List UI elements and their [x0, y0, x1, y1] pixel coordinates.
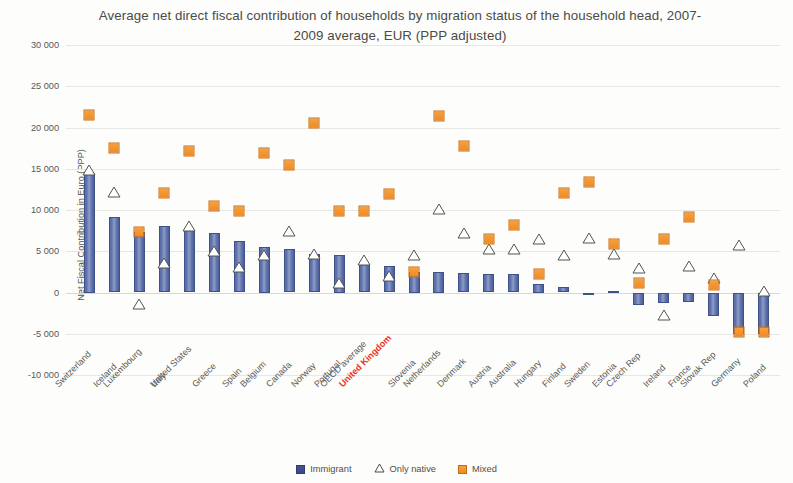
- bar-immigrant: [209, 233, 220, 292]
- marker-mixed: [658, 233, 669, 244]
- chart-title: Average net direct fiscal contribution o…: [90, 6, 710, 46]
- marker-only-native: [382, 270, 396, 282]
- marker-only-native: [732, 239, 746, 251]
- marker-mixed: [134, 227, 145, 238]
- y-axis-tick-label: 20 000: [31, 123, 59, 133]
- marker-mixed: [209, 200, 220, 211]
- legend-item[interactable]: Only native: [374, 463, 437, 475]
- bar-immigrant: [284, 249, 295, 293]
- y-axis-tick-label: 15 000: [31, 164, 59, 174]
- marker-mixed: [733, 327, 744, 338]
- gridline: [66, 45, 780, 46]
- legend-label: Only native: [390, 464, 437, 474]
- gridline: [66, 169, 780, 170]
- marker-mixed: [633, 277, 644, 288]
- y-axis-tick-label: 0: [54, 288, 59, 298]
- y-axis-tick-label: 10 000: [31, 205, 59, 215]
- marker-only-native: [107, 186, 121, 198]
- bar-immigrant: [583, 293, 594, 295]
- marker-mixed: [159, 187, 170, 198]
- legend-item[interactable]: Immigrant: [296, 464, 351, 474]
- marker-only-native: [557, 249, 571, 261]
- marker-only-native: [132, 298, 146, 310]
- marker-only-native: [182, 220, 196, 232]
- marker-only-native: [207, 245, 221, 257]
- marker-mixed: [483, 233, 494, 244]
- square-orange-icon: [458, 465, 467, 474]
- gridline: [66, 128, 780, 129]
- marker-mixed: [608, 238, 619, 249]
- marker-mixed: [84, 110, 95, 121]
- gridline: [66, 293, 780, 294]
- marker-mixed: [533, 268, 544, 279]
- marker-only-native: [357, 254, 371, 266]
- y-axis-tick-label: 25 000: [31, 81, 59, 91]
- y-axis-tick-label: 30 000: [31, 40, 59, 50]
- bar-immigrant: [633, 293, 644, 305]
- marker-only-native: [657, 309, 671, 321]
- gridline: [66, 251, 780, 252]
- marker-mixed: [384, 189, 395, 200]
- marker-only-native: [682, 260, 696, 272]
- bar-immigrant: [483, 274, 494, 293]
- bar-immigrant: [84, 173, 95, 293]
- chart-legend: ImmigrantOnly nativeMixed: [0, 463, 793, 475]
- marker-only-native: [457, 227, 471, 239]
- x-axis-labels: SwitzerlandIcelandLuxembourgItalyUnited …: [66, 378, 780, 473]
- marker-only-native: [582, 232, 596, 244]
- marker-mixed: [708, 280, 719, 291]
- bar-immigrant: [558, 287, 569, 293]
- gridline: [66, 86, 780, 87]
- bar-immigrant: [433, 272, 444, 293]
- legend-label: Immigrant: [310, 464, 351, 474]
- legend-label: Mixed: [472, 464, 497, 474]
- gridline: [66, 334, 780, 335]
- bar-immigrant: [359, 264, 370, 292]
- marker-mixed: [284, 159, 295, 170]
- marker-mixed: [758, 327, 769, 338]
- triangle-icon: [374, 463, 385, 475]
- bar-immigrant: [109, 217, 120, 293]
- marker-mixed: [508, 219, 519, 230]
- bar-immigrant: [533, 284, 544, 292]
- square-blue-icon: [296, 465, 305, 474]
- y-axis-tick-label: -5 000: [33, 329, 59, 339]
- bar-immigrant: [658, 293, 669, 304]
- chart-container: Average net direct fiscal contribution o…: [0, 0, 793, 483]
- plot-area: Net Fiscal Contribution in Euro (PPP) 30…: [66, 45, 780, 375]
- marker-only-native: [632, 262, 646, 274]
- marker-mixed: [683, 212, 694, 223]
- marker-only-native: [482, 243, 496, 255]
- marker-mixed: [409, 266, 420, 277]
- bar-immigrant: [134, 232, 145, 292]
- y-axis-tick-label: -10 000: [28, 370, 59, 380]
- marker-mixed: [184, 145, 195, 156]
- marker-mixed: [109, 143, 120, 154]
- marker-mixed: [259, 148, 270, 159]
- bar-immigrant: [508, 274, 519, 292]
- marker-only-native: [407, 249, 421, 261]
- marker-only-native: [82, 164, 96, 176]
- marker-only-native: [157, 257, 171, 269]
- legend-item[interactable]: Mixed: [458, 464, 497, 474]
- marker-mixed: [309, 118, 320, 129]
- marker-mixed: [359, 205, 370, 216]
- bar-immigrant: [708, 293, 719, 317]
- marker-only-native: [507, 243, 521, 255]
- y-axis-tick-label: 5 000: [36, 246, 59, 256]
- marker-only-native: [257, 249, 271, 261]
- marker-mixed: [234, 205, 245, 216]
- marker-only-native: [532, 233, 546, 245]
- marker-only-native: [332, 277, 346, 289]
- bar-immigrant: [608, 291, 619, 293]
- marker-mixed: [334, 205, 345, 216]
- marker-only-native: [232, 261, 246, 273]
- marker-only-native: [607, 248, 621, 260]
- marker-only-native: [432, 203, 446, 215]
- bar-immigrant: [184, 230, 195, 293]
- gridline: [66, 210, 780, 211]
- marker-only-native: [282, 225, 296, 237]
- marker-only-native: [757, 285, 771, 297]
- marker-mixed: [583, 176, 594, 187]
- bar-immigrant: [458, 273, 469, 293]
